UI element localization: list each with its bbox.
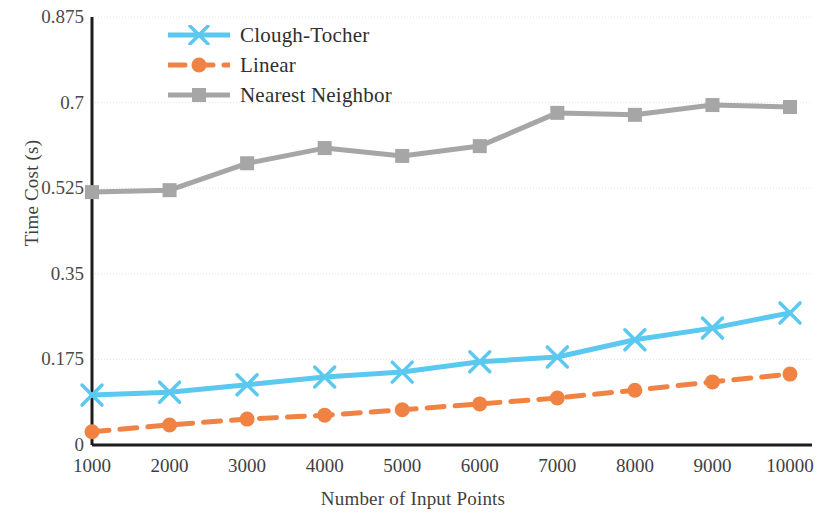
- legend-item-nearest-neighbor[interactable]: Nearest Neighbor: [168, 80, 468, 110]
- legend-swatch-clough-tocher: [168, 25, 230, 45]
- y-tick-label: 0.35: [0, 263, 84, 285]
- legend-item-clough-tocher[interactable]: Clough-Tocher: [168, 20, 468, 50]
- data-point: [317, 408, 332, 423]
- data-point: [627, 383, 642, 398]
- legend-label-clough-tocher: Clough-Tocher: [240, 23, 369, 48]
- marker-circle: [317, 408, 332, 423]
- x-tick-label: 4000: [306, 455, 344, 477]
- legend-marker-icon: [168, 25, 230, 45]
- data-point: [550, 391, 565, 406]
- marker-circle: [627, 383, 642, 398]
- marker-circle: [162, 417, 177, 432]
- marker-circle: [240, 412, 255, 427]
- series-line-2: [92, 105, 790, 192]
- marker-circle: [705, 374, 720, 389]
- x-tick-label: 6000: [461, 455, 499, 477]
- data-point: [163, 183, 177, 197]
- legend-item-linear[interactable]: Linear: [168, 50, 468, 80]
- data-point: [395, 149, 409, 163]
- legend-marker-icon: [168, 55, 230, 75]
- x-tick-label: 1000: [73, 455, 111, 477]
- data-point: [395, 402, 410, 417]
- marker-circle: [550, 391, 565, 406]
- data-point: [783, 367, 798, 382]
- marker-circle: [472, 396, 487, 411]
- marker-circle: [783, 367, 798, 382]
- y-tick-label: 0.7: [0, 92, 84, 114]
- legend-marker-circle: [192, 58, 207, 73]
- data-point: [628, 108, 642, 122]
- marker-square: [318, 141, 332, 155]
- marker-square: [395, 149, 409, 163]
- marker-square: [783, 100, 797, 114]
- data-point: [783, 100, 797, 114]
- marker-square: [85, 185, 99, 199]
- legend-label-nearest-neighbor: Nearest Neighbor: [240, 83, 392, 108]
- series-line-1: [92, 374, 790, 432]
- data-point: [85, 185, 99, 199]
- data-point: [473, 139, 487, 153]
- y-tick-label: 0.875: [0, 6, 84, 28]
- x-tick-label: 9000: [693, 455, 731, 477]
- legend-marker-square: [192, 88, 206, 102]
- x-tick-label: 3000: [228, 455, 266, 477]
- marker-square: [240, 156, 254, 170]
- legend-swatch-nearest-neighbor: [168, 85, 230, 105]
- marker-circle: [395, 402, 410, 417]
- data-point: [85, 424, 100, 439]
- data-point: [318, 141, 332, 155]
- marker-square: [550, 106, 564, 120]
- x-tick-label: 5000: [383, 455, 421, 477]
- marker-square: [628, 108, 642, 122]
- data-point: [550, 106, 564, 120]
- data-point: [705, 98, 719, 112]
- marker-square: [163, 183, 177, 197]
- x-tick-label: 7000: [538, 455, 576, 477]
- x-axis-title: Number of Input Points: [0, 488, 826, 510]
- data-point: [162, 417, 177, 432]
- data-point: [705, 374, 720, 389]
- x-tick-label: 10000: [766, 455, 814, 477]
- y-tick-label: 0.175: [0, 348, 84, 370]
- legend-label-linear: Linear: [240, 53, 296, 78]
- chart-legend: Clough-Tocher Linear Nearest Neighbor: [168, 20, 468, 110]
- legend-swatch-linear: [168, 55, 230, 75]
- data-point: [240, 412, 255, 427]
- y-axis-tick-labels: 00.1750.350.5250.70.875: [0, 0, 84, 520]
- data-point: [240, 156, 254, 170]
- x-tick-label: 8000: [616, 455, 654, 477]
- y-tick-label: 0: [0, 434, 84, 456]
- data-point: [472, 396, 487, 411]
- marker-square: [705, 98, 719, 112]
- time-cost-line-chart: Time Cost (s) 00.1750.350.5250.70.875 10…: [0, 0, 826, 520]
- marker-square: [473, 139, 487, 153]
- marker-circle: [85, 424, 100, 439]
- legend-marker-icon: [168, 85, 230, 105]
- y-tick-label: 0.525: [0, 177, 84, 199]
- x-tick-label: 2000: [151, 455, 189, 477]
